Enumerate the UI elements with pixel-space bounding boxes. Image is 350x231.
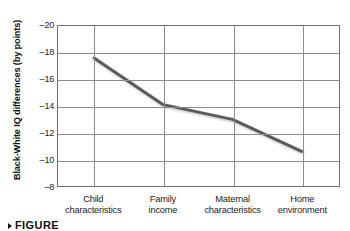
y-axis-tick-label: –20	[28, 20, 54, 30]
gridline-vertical	[94, 26, 95, 186]
figure-container: Black-White IQ differences (by points) –…	[0, 0, 350, 231]
x-axis-tick-label-group: ChildcharacteristicsFamilyincomeMaternal…	[0, 190, 350, 220]
y-axis-tick-label: –14	[28, 101, 54, 111]
x-axis-tick-label: Homeenvironment	[260, 194, 344, 215]
figure-caption: FIGURE	[8, 219, 59, 231]
triangle-right-icon	[8, 223, 12, 229]
gridline-vertical	[164, 26, 165, 186]
gridline-horizontal	[58, 134, 339, 135]
figure-caption-label: FIGURE	[15, 219, 59, 231]
series-polyline	[94, 58, 302, 151]
gridline-vertical	[303, 26, 304, 186]
y-axis-tick-label: –10	[28, 155, 54, 165]
y-axis-tick-label: –12	[28, 128, 54, 138]
x-axis-tick-label-line: environment	[260, 205, 344, 216]
gridline-horizontal	[58, 107, 339, 108]
gridline-horizontal	[58, 161, 339, 162]
gridline-horizontal	[58, 80, 339, 81]
gridline-horizontal	[58, 53, 339, 54]
y-axis-tick-label: –18	[28, 47, 54, 57]
y-axis-tick-label: –16	[28, 74, 54, 84]
gridline-vertical	[234, 26, 235, 186]
x-axis-tick-label-line: Home	[260, 194, 344, 205]
plot-area	[57, 25, 340, 187]
y-axis-title: Black-White IQ differences (by points)	[12, 14, 22, 186]
data-series-line	[58, 26, 339, 186]
